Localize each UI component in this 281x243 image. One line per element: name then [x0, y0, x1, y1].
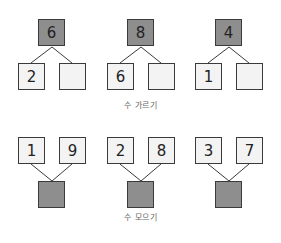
part-box: 6 — [107, 63, 134, 90]
whole-box-empty[interactable] — [38, 181, 65, 208]
whole-box-empty[interactable] — [215, 181, 242, 208]
combine-caption: 수 모으기 — [0, 211, 281, 222]
whole-box: 4 — [215, 19, 242, 46]
part-box-empty[interactable] — [148, 63, 175, 90]
part-box: 2 — [107, 137, 134, 164]
whole-box-empty[interactable] — [127, 181, 154, 208]
whole-box: 6 — [38, 19, 65, 46]
part-box-empty[interactable] — [236, 63, 263, 90]
part-box-empty[interactable] — [59, 63, 86, 90]
part-box: 9 — [59, 137, 86, 164]
part-box: 2 — [18, 63, 45, 90]
part-box: 7 — [236, 137, 263, 164]
divide-caption: 수 가르기 — [0, 99, 281, 110]
part-box: 8 — [148, 137, 175, 164]
whole-box: 8 — [127, 19, 154, 46]
part-box: 1 — [18, 137, 45, 164]
part-box: 1 — [195, 63, 222, 90]
part-box: 3 — [195, 137, 222, 164]
